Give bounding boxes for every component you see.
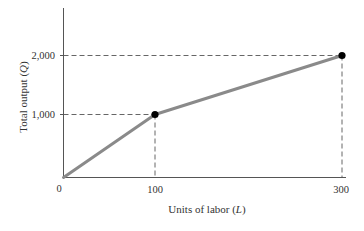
origin-label: 0 — [56, 183, 61, 194]
x-tick-label-300: 300 — [333, 184, 349, 195]
x-axis-title: Units of labor (L) — [168, 203, 246, 216]
x-tick-label-100: 100 — [147, 184, 163, 195]
total-output-chart: 2,000 1,000 0 100 300 Units of labor (L)… — [0, 0, 364, 231]
point-300-2000 — [338, 52, 345, 59]
point-100-1000 — [151, 111, 158, 118]
y-axis-title: Total output (Q) — [17, 61, 30, 133]
y-tick-label-1000: 1,000 — [31, 109, 55, 120]
total-output-line — [64, 56, 343, 178]
y-tick-label-2000: 2,000 — [31, 50, 55, 61]
